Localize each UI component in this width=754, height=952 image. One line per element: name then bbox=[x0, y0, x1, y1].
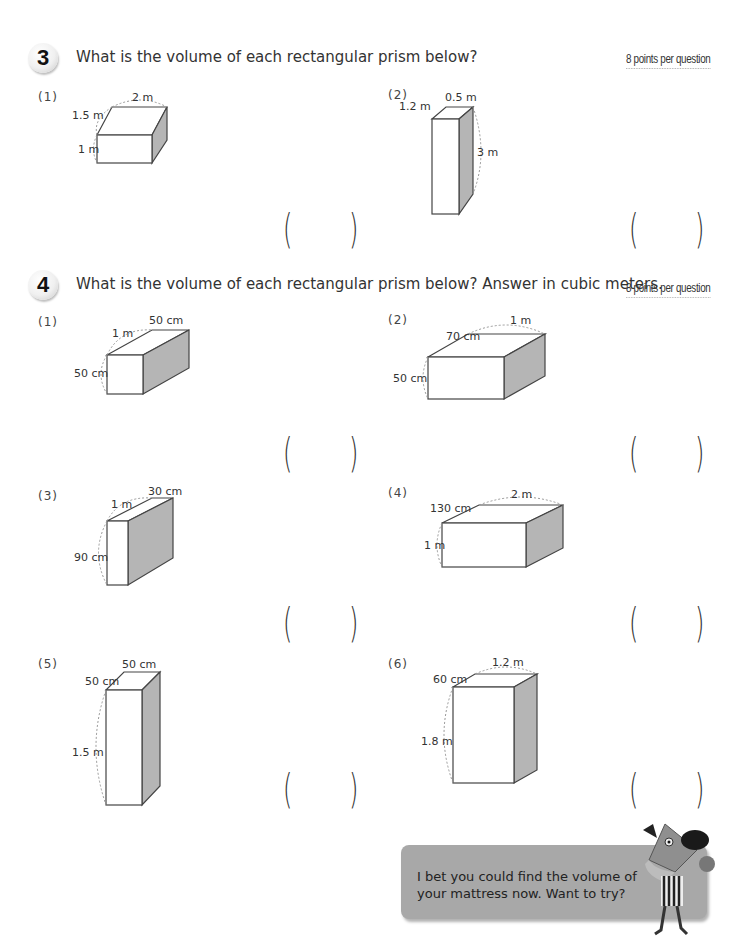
dim-height: 1 m bbox=[424, 539, 445, 552]
dim-depth: 1 m bbox=[112, 327, 133, 340]
answer-field-4-5[interactable]: () bbox=[280, 772, 362, 816]
prism-figure-4-2: 1 m 70 cm 50 cm bbox=[420, 310, 580, 405]
dim-length: 30 cm bbox=[148, 485, 182, 498]
speech-text: I bet you could find the volume of your … bbox=[417, 868, 647, 902]
dim-depth: 1 m bbox=[111, 498, 132, 511]
dim-length: 2 m bbox=[511, 488, 532, 501]
prism-figure-4-5: 50 cm 50 cm 1.5 m bbox=[60, 650, 180, 810]
answer-field-4-1[interactable]: () bbox=[280, 436, 362, 480]
dim-length: 50 cm bbox=[149, 314, 183, 327]
section-4-prompt: What is the volume of each rectangular p… bbox=[76, 275, 663, 293]
question-label: (1) bbox=[38, 315, 58, 329]
section-4-badge: 4 bbox=[28, 270, 58, 300]
dim-length: 2 m bbox=[132, 91, 153, 104]
section-3-prompt: What is the volume of each rectangular p… bbox=[76, 48, 477, 66]
question-label: (2) bbox=[388, 313, 408, 327]
prism-figure-4-1: 50 cm 1 m 50 cm bbox=[60, 310, 200, 405]
dim-length: 50 cm bbox=[122, 658, 156, 671]
dim-height: 50 cm bbox=[74, 367, 108, 380]
section-4-points: 8 points per question bbox=[626, 281, 710, 298]
answer-field-3-1[interactable]: () bbox=[280, 212, 362, 256]
question-label: (5) bbox=[38, 657, 58, 671]
dim-length: 1.2 m bbox=[492, 656, 524, 669]
dim-depth: 70 cm bbox=[446, 330, 480, 343]
prism-figure-3-1: 2 m 1.5 m 1 m bbox=[60, 85, 180, 175]
question-label: (6) bbox=[388, 657, 408, 671]
dim-length: 1 m bbox=[510, 314, 531, 327]
answer-field-4-3[interactable]: () bbox=[280, 606, 362, 650]
section-3-points: 8 points per question bbox=[626, 52, 710, 69]
dim-height: 50 cm bbox=[393, 372, 427, 385]
dim-height: 3 m bbox=[477, 146, 498, 159]
dim-height: 1.5 m bbox=[72, 746, 104, 759]
prism-figure-4-6: 1.2 m 60 cm 1.8 m bbox=[420, 650, 560, 800]
question-label: (3) bbox=[38, 489, 58, 503]
prism-figure-3-2: 0.5 m 1.2 m 3 m bbox=[405, 88, 505, 223]
prism-figure-4-4: 2 m 130 cm 1 m bbox=[420, 485, 580, 580]
dim-height: 90 cm bbox=[74, 551, 108, 564]
dim-depth: 1.5 m bbox=[72, 109, 104, 122]
answer-field-4-6[interactable]: () bbox=[626, 772, 708, 816]
dim-depth: 50 cm bbox=[85, 675, 119, 688]
answer-field-4-4[interactable]: () bbox=[626, 606, 708, 650]
question-label: (4) bbox=[388, 486, 408, 500]
prism-figure-4-3: 30 cm 1 m 90 cm bbox=[60, 485, 200, 600]
dim-height: 1 m bbox=[78, 143, 99, 156]
dim-depth: 130 cm bbox=[430, 502, 471, 515]
dim-length: 0.5 m bbox=[445, 91, 477, 104]
answer-field-3-2[interactable]: () bbox=[626, 212, 708, 256]
wolf-mascot-icon bbox=[635, 820, 745, 950]
dim-depth: 60 cm bbox=[433, 673, 467, 686]
answer-field-4-2[interactable]: () bbox=[626, 436, 708, 480]
section-3-badge: 3 bbox=[28, 43, 58, 73]
dim-height: 1.8 m bbox=[421, 735, 453, 748]
question-label: (1) bbox=[38, 90, 58, 104]
dim-depth: 1.2 m bbox=[399, 100, 431, 113]
